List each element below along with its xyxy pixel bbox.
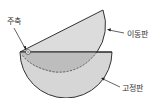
pivot-center (27, 51, 29, 53)
movable-arrowhead (107, 28, 111, 31)
fixed-plate-label: 고정판 (122, 83, 144, 93)
movable-leader (109, 30, 124, 33)
fixed-leader (103, 79, 120, 87)
pivot-label: 주축 (7, 17, 21, 26)
movable-plate-label: 이동판 (127, 29, 149, 39)
movable-plate (20, 10, 106, 52)
capacitor-diagram: 주축 이동판 고정판 (0, 0, 162, 98)
